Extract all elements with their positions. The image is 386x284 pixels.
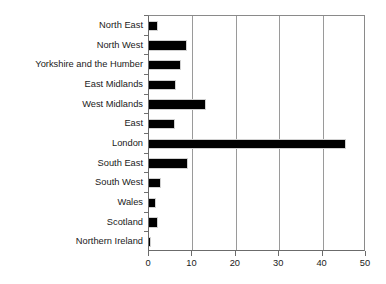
y-axis-tick-label: Northern Ireland xyxy=(0,236,143,246)
x-axis-tick-label: 10 xyxy=(178,258,204,269)
x-axis-tick-mark xyxy=(278,251,279,256)
bar xyxy=(149,178,161,189)
bar xyxy=(149,60,181,71)
x-axis-tick-mark xyxy=(365,251,366,256)
y-axis-tick-label: West Midlands xyxy=(0,99,143,109)
y-axis-tick-label: South East xyxy=(0,158,143,168)
bar xyxy=(149,158,188,169)
bar xyxy=(149,198,156,209)
x-axis-tick-mark xyxy=(191,251,192,256)
y-axis-tick-label: East Midlands xyxy=(0,79,143,89)
x-axis-tick-label: 0 xyxy=(135,258,161,269)
x-axis-tick-mark xyxy=(148,251,149,256)
bar-row xyxy=(149,119,364,130)
bar-row xyxy=(149,60,364,71)
y-axis-tick-label: North East xyxy=(0,20,143,30)
y-axis-tick-label: Yorkshire and the Humber xyxy=(0,59,143,69)
x-axis-tick-label: 20 xyxy=(222,258,248,269)
x-axis-tick-mark xyxy=(322,251,323,256)
bar xyxy=(149,21,158,32)
bar-row xyxy=(149,21,364,32)
bar-row xyxy=(149,139,364,150)
x-axis-tick-label: 50 xyxy=(352,258,378,269)
y-axis-tick-label: East xyxy=(0,118,143,128)
bar xyxy=(149,139,346,150)
bar xyxy=(149,217,158,228)
bar xyxy=(149,119,175,130)
bar-row xyxy=(149,40,364,51)
bar-row xyxy=(149,217,364,228)
y-axis-tick-label: North West xyxy=(0,40,143,50)
bar-row xyxy=(149,99,364,110)
bar-row xyxy=(149,80,364,91)
bar xyxy=(149,40,187,51)
x-axis-tick-label: 30 xyxy=(265,258,291,269)
y-axis-tick-label: South West xyxy=(0,177,143,187)
y-axis-tick-labels: North EastNorth WestYorkshire and the Hu… xyxy=(0,15,143,251)
x-axis-tick-label: 40 xyxy=(309,258,335,269)
bar-row xyxy=(149,198,364,209)
bar-chart-figure: North EastNorth WestYorkshire and the Hu… xyxy=(0,0,386,284)
bar xyxy=(149,99,206,110)
x-axis-tick-mark xyxy=(235,251,236,256)
bar-row xyxy=(149,158,364,169)
y-axis-tick-label: Wales xyxy=(0,197,143,207)
y-axis-tick-label: Scotland xyxy=(0,217,143,227)
y-axis-tick-label: London xyxy=(0,138,143,148)
bar xyxy=(149,237,151,248)
bars-layer xyxy=(149,16,364,250)
bar-row xyxy=(149,178,364,189)
plot-area xyxy=(148,15,365,251)
bar xyxy=(149,80,176,91)
bar-row xyxy=(149,237,364,248)
